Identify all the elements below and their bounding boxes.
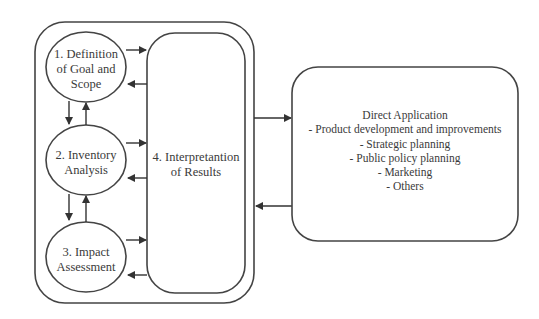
application-item: - Marketing — [294, 165, 516, 179]
label-line: Assessment — [46, 260, 126, 275]
direct-application-label: Direct Application - Product development… — [294, 108, 516, 194]
label-line: of Goal and — [46, 62, 126, 77]
label-line: Analysis — [46, 163, 126, 178]
application-item: - Public policy planning — [294, 151, 516, 165]
application-item: - Strategic planning — [294, 137, 516, 151]
label-line: 3. Impact — [46, 245, 126, 260]
interpretation-label: 4. Interpretantion of Results — [149, 150, 243, 180]
application-item: - Others — [294, 179, 516, 193]
label-line: of Results — [149, 165, 243, 180]
stage-impact-label: 3. Impact Assessment — [46, 245, 126, 275]
stage-goal-scope-label: 1. Definition of Goal and Scope — [46, 47, 126, 91]
label-line: 2. Inventory — [46, 148, 126, 163]
label-line: 4. Interpretantion — [149, 150, 243, 165]
label-line: 1. Definition — [46, 47, 126, 62]
stage-inventory-label: 2. Inventory Analysis — [46, 148, 126, 178]
application-item: - Product development and improvements — [294, 122, 516, 136]
label-line: Scope — [46, 77, 126, 92]
direct-application-title: Direct Application — [294, 108, 516, 122]
